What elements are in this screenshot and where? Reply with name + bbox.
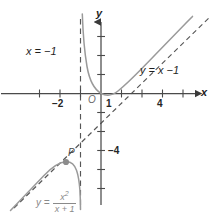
curve-equation: y = x2 x + 1	[36, 190, 76, 215]
curve-equation-lhs: y =	[36, 197, 50, 208]
curve-equation-denominator: x + 1	[53, 205, 77, 214]
x-tick-label-4: 4	[157, 99, 163, 109]
y-axis-label: y	[96, 8, 102, 19]
curve-equation-numerator: x2	[53, 190, 77, 202]
curve-equation-fraction: x2 x + 1	[53, 190, 77, 215]
origin-label: O	[88, 95, 96, 105]
y-axis	[97, 22, 105, 205]
x-tick-label-minus2: −2	[52, 99, 63, 109]
curve-right-branch	[82, 14, 192, 95]
oblique-asymptote-label: y = x −1	[140, 65, 179, 76]
y-tick-label-minus4: −4	[108, 146, 119, 156]
graph-svg	[0, 0, 219, 222]
point-p-marker	[63, 159, 69, 165]
vertical-asymptote-label: x = −1	[26, 46, 57, 57]
point-p-label: P	[68, 148, 75, 158]
x-tick-label-1: 1	[106, 99, 112, 109]
x-axis-label: x	[201, 87, 207, 98]
figure-canvas: x y O −2 1 4 −4 x = −1 y = x −1 P y = x2…	[0, 0, 219, 222]
